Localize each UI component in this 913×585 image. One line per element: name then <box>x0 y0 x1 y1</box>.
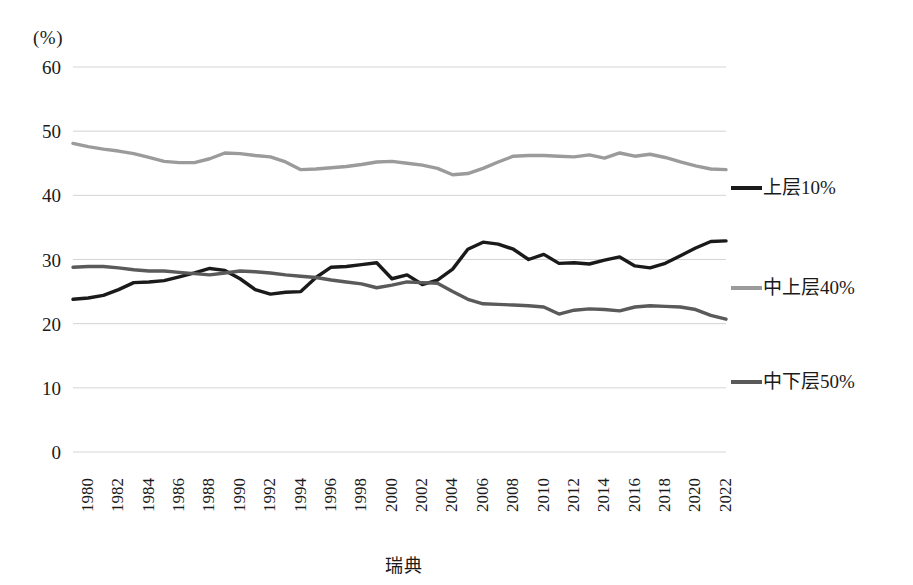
legend-swatch-icon <box>731 286 762 290</box>
x-tick-label: 2012 <box>565 478 582 512</box>
legend-item-2[interactable]: 中下层50% <box>731 372 855 391</box>
series-line-1 <box>73 143 726 174</box>
y-tick-label: 60 <box>21 58 61 77</box>
x-tick-label: 1980 <box>79 478 96 512</box>
y-tick-label: 30 <box>21 251 61 270</box>
caption-text: 瑞典 <box>385 551 423 577</box>
legend-label: 中下层50% <box>763 372 855 391</box>
x-tick-label: 2016 <box>626 478 643 512</box>
x-tick-label: 2018 <box>656 478 673 512</box>
x-tick-label: 2014 <box>595 478 612 512</box>
x-tick-label: 2000 <box>383 478 400 512</box>
chart-container: (%) 6050403020100 1980198219841986198819… <box>0 0 913 585</box>
legend-item-0[interactable]: 上层10% <box>731 178 836 197</box>
x-tick-label: 2002 <box>413 478 430 512</box>
x-tick-label: 1986 <box>170 478 187 512</box>
gridlines <box>73 67 726 452</box>
legend-swatch-icon <box>731 186 762 190</box>
x-tick-label: 1996 <box>322 478 339 512</box>
y-tick-label: 10 <box>21 379 61 398</box>
x-tick-label: 2006 <box>474 478 491 512</box>
legend-label: 上层10% <box>763 178 836 197</box>
x-tick-label: 1984 <box>140 478 157 512</box>
x-tick-label: 2004 <box>443 478 460 512</box>
series-line-2 <box>73 267 726 320</box>
legend-item-1[interactable]: 中上层40% <box>731 278 855 297</box>
x-tick-label: 1994 <box>292 478 309 512</box>
x-tick-label: 2008 <box>504 478 521 512</box>
x-tick-label: 1988 <box>200 478 217 512</box>
series-group <box>73 143 726 319</box>
x-tick-label: 1982 <box>109 478 126 512</box>
x-tick-label: 1998 <box>352 478 369 512</box>
x-tick-label: 2020 <box>686 478 703 512</box>
y-tick-label: 40 <box>21 186 61 205</box>
legend-swatch-icon <box>731 380 762 384</box>
y-tick-label: 20 <box>21 315 61 334</box>
x-tick-label: 1990 <box>231 478 248 512</box>
chart-caption: 瑞典 <box>0 551 913 577</box>
x-tick-label: 1992 <box>261 478 278 512</box>
legend-label: 中上层40% <box>763 278 855 297</box>
x-tick-label: 2010 <box>535 478 552 512</box>
y-tick-label: 50 <box>21 122 61 141</box>
x-tick-label: 2022 <box>717 478 734 512</box>
y-tick-label: 0 <box>21 443 61 462</box>
